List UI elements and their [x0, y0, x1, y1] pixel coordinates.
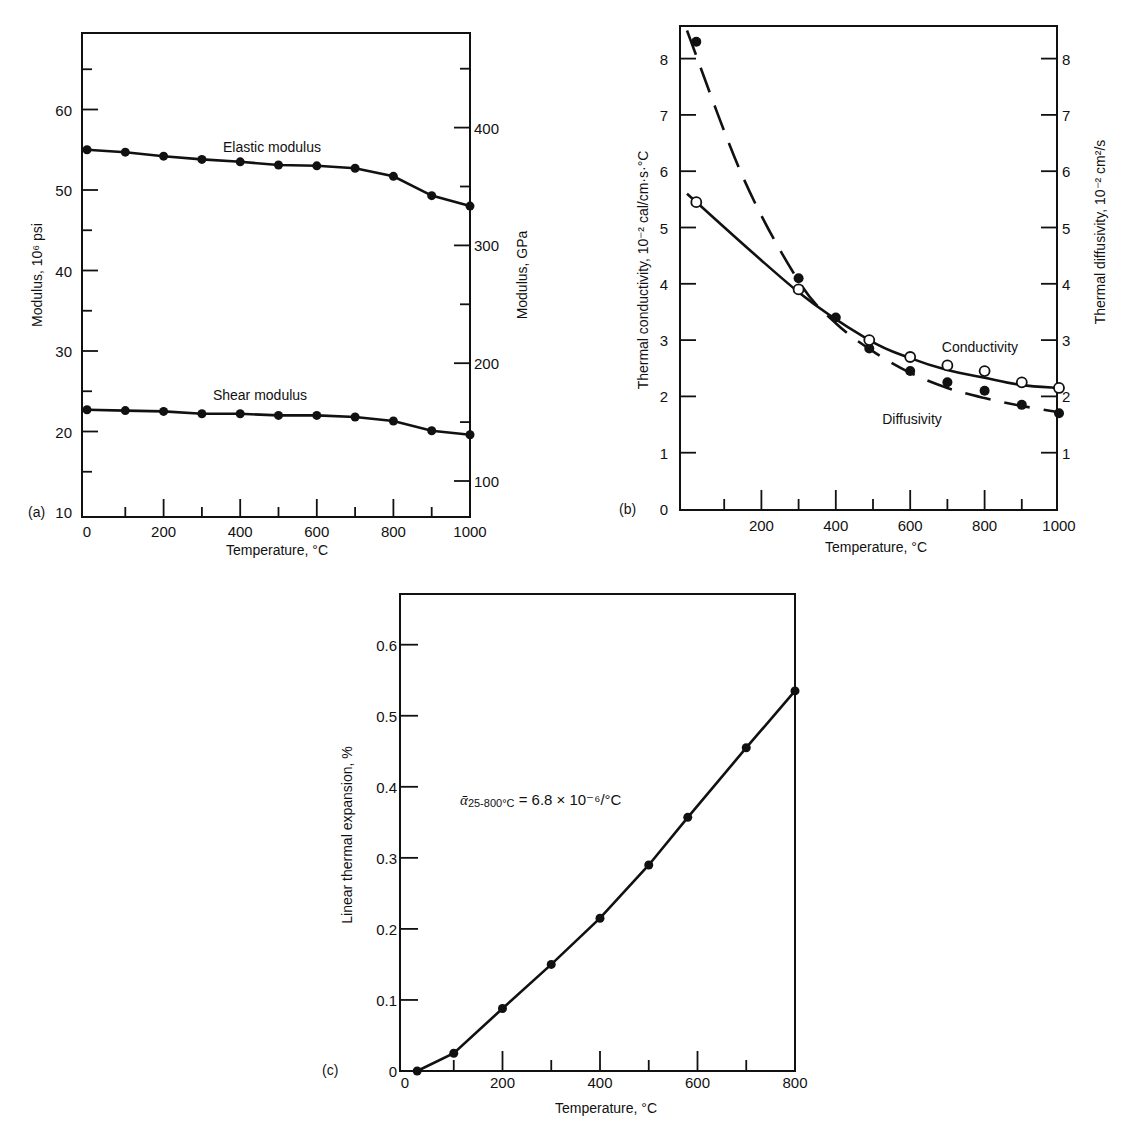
- conductivity-point: [980, 366, 990, 376]
- chart-panel-c: 00.10.20.30.40.50.60200400600800 (c) Tem…: [322, 594, 808, 1116]
- tick-label: 400: [823, 517, 848, 534]
- tick-label: 1000: [1042, 517, 1075, 534]
- tick-label: 7: [1062, 107, 1070, 124]
- tick-label: 600: [685, 1074, 710, 1091]
- tick-label: 0.4: [376, 779, 397, 796]
- tick-label: 200: [151, 523, 176, 540]
- series-label-diffusivity: Diffusivity: [882, 411, 942, 427]
- x-axis-label: Temperature, °C: [226, 542, 328, 558]
- tick-label: 0.5: [376, 708, 397, 725]
- tick-label: 5: [660, 220, 668, 237]
- tick-label: 4: [1062, 276, 1070, 293]
- tick-label: 10: [55, 504, 72, 521]
- tick-label: 400: [474, 120, 499, 137]
- plot-frame: [680, 26, 1057, 510]
- data-point: [197, 155, 206, 164]
- data-point: [312, 411, 321, 420]
- data-point: [791, 686, 800, 695]
- tick-label: 5: [1062, 220, 1070, 237]
- data-point: [547, 960, 556, 969]
- data-point: [83, 145, 92, 154]
- figure-canvas: 1020304050601002003004000200400600800100…: [0, 0, 1129, 1127]
- tick-label: 200: [474, 355, 499, 372]
- diffusivity-point: [831, 313, 841, 323]
- tick-label: 0: [660, 501, 668, 518]
- tick-label: 200: [490, 1074, 515, 1091]
- data-point: [449, 1049, 458, 1058]
- tick-label: 600: [304, 523, 329, 540]
- data-point: [389, 172, 398, 181]
- data-point: [159, 407, 168, 416]
- data-point: [683, 813, 692, 822]
- tick-label: 7: [660, 107, 668, 124]
- conductivity-point: [1054, 383, 1064, 393]
- tick-label: 0.2: [376, 921, 397, 938]
- series-label-conductivity: Conductivity: [942, 339, 1018, 355]
- tick-label: 0.1: [376, 992, 397, 1009]
- diffusivity-point: [691, 37, 701, 47]
- tick-label: 400: [228, 523, 253, 540]
- data-point: [197, 409, 206, 418]
- data-point: [236, 409, 245, 418]
- tick-label: 20: [55, 424, 72, 441]
- conductivity-point: [794, 284, 804, 294]
- data-point: [596, 914, 605, 923]
- conductivity-line: [687, 194, 1059, 388]
- tick-label: 3: [1062, 332, 1070, 349]
- diffusivity-point: [1017, 400, 1027, 410]
- chart-panel-a: 1020304050601002003004000200400600800100…: [28, 33, 530, 558]
- tick-label: 50: [55, 182, 72, 199]
- plot-frame: [82, 33, 470, 517]
- data-point: [413, 1067, 422, 1076]
- tick-label: 0.6: [376, 637, 397, 654]
- panel-label: (b): [619, 501, 636, 517]
- diffusivity-point: [980, 386, 990, 396]
- tick-label: 1: [1062, 445, 1070, 462]
- tick-label: 8: [1062, 51, 1070, 68]
- tick-label: 2: [660, 388, 668, 405]
- tick-label: 400: [587, 1074, 612, 1091]
- data-point: [312, 161, 321, 170]
- tick-label: 4: [660, 276, 668, 293]
- tick-label: 0: [389, 1063, 397, 1080]
- data-point: [83, 405, 92, 414]
- diffusivity-point: [905, 366, 915, 376]
- tick-label: 300: [474, 237, 499, 254]
- data-point: [466, 430, 475, 439]
- conductivity-point: [1017, 377, 1027, 387]
- data-point: [466, 202, 475, 211]
- conductivity-point: [691, 197, 701, 207]
- data-point: [351, 413, 360, 422]
- data-series: [413, 686, 800, 1075]
- plot-frame: [400, 594, 795, 1071]
- tick-label: 0.3: [376, 850, 397, 867]
- tick-label: 30: [55, 343, 72, 360]
- data-point: [389, 417, 398, 426]
- data-point: [742, 743, 751, 752]
- tick-label: 40: [55, 263, 72, 280]
- panel-label: (a): [28, 504, 45, 520]
- data-point: [121, 406, 130, 415]
- tick-label: 800: [972, 517, 997, 534]
- tick-label: 6: [660, 163, 668, 180]
- data-point: [274, 161, 283, 170]
- tick-label: 800: [782, 1074, 807, 1091]
- diffusivity-point: [794, 273, 804, 283]
- tick-label: 800: [381, 523, 406, 540]
- tick-label: 1: [660, 445, 668, 462]
- diffusivity-point: [1054, 408, 1064, 418]
- tick-label: 1000: [453, 523, 486, 540]
- y-axis-label-right: Modulus, GPa: [514, 230, 530, 319]
- data-point: [427, 426, 436, 435]
- y-axis-label: Linear thermal expansion, %: [339, 746, 355, 923]
- y-axis-label-right: Thermal diffusivity, 10⁻² cm²/s: [1092, 140, 1108, 325]
- series-label-shear: Shear modulus: [213, 387, 307, 403]
- tick-label: 100: [474, 473, 499, 490]
- mean-expansion-annotation: ᾱ25-800°C = 6.8 × 10⁻⁶/°C: [460, 791, 622, 809]
- y-axis-label: Thermal conductivity, 10⁻² cal/cm·s·°C: [635, 151, 651, 390]
- tick-label: 6: [1062, 163, 1070, 180]
- series-line: [87, 150, 470, 206]
- x-axis-label: Temperature, °C: [555, 1100, 657, 1116]
- axis-ticks: 00.10.20.30.40.50.60200400600800: [376, 637, 807, 1091]
- data-point: [236, 157, 245, 166]
